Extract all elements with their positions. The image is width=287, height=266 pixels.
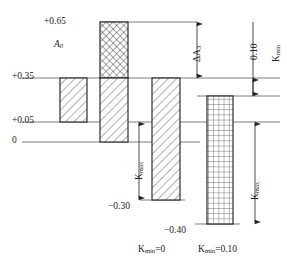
label-a0-sub: 0: [60, 42, 63, 49]
label-delta-a3-sub: 3: [195, 46, 202, 49]
label-delta-a3-letter: ΔA: [192, 49, 202, 62]
caption-kmin-zero-letter: K: [138, 244, 145, 254]
label-plus035: +0.35: [12, 72, 34, 82]
bar-second-lower: [100, 78, 128, 142]
label-minus040: −0.40: [164, 226, 186, 236]
label-kmin-right: Kmin: [272, 45, 282, 62]
label-a0: A0: [54, 40, 63, 50]
label-plus065: +0.65: [44, 17, 66, 27]
label-kmax-right-letter: K: [250, 193, 260, 200]
label-kmax-right-sub: max: [253, 182, 260, 193]
label-kmin-right-sub: min: [274, 45, 281, 55]
bar-a0: [60, 78, 87, 122]
label-kmax-left: Kmax: [135, 162, 145, 180]
caption-kmin-zero-sub: min: [145, 247, 155, 254]
label-kmin-right-letter: K: [271, 55, 281, 62]
caption-kmin-zero-val: =0: [155, 244, 165, 254]
caption-kmin-010-val: =0.10: [215, 244, 237, 254]
caption-kmin-010-letter: K: [198, 244, 205, 254]
label-plus005: +0.05: [12, 116, 34, 126]
gridline-group: [22, 22, 280, 224]
caption-kmin-zero: Kmin=0: [138, 245, 165, 255]
bar-fourth: [207, 96, 233, 224]
label-minus030: −0.30: [108, 202, 130, 212]
bar-third: [152, 78, 180, 200]
caption-kmin-010-sub: min: [205, 247, 215, 254]
label-kmax-left-sub: max: [137, 162, 144, 173]
bar-second-upper: [100, 22, 128, 78]
label-delta-a3: ΔA3: [193, 46, 203, 62]
tolerance-diagram-svg: [0, 0, 287, 266]
caption-kmin-010: Kmin=0.10: [198, 245, 237, 255]
diagram-canvas: +0.65 +0.35 +0.05 0 −0.30 −0.40 A0 ΔA3 0…: [0, 0, 287, 266]
label-kmax-right: Kmax: [251, 182, 261, 200]
label-gap-010: 0.10: [250, 43, 260, 60]
label-zero: 0: [12, 136, 17, 146]
label-kmax-left-letter: K: [134, 173, 144, 180]
